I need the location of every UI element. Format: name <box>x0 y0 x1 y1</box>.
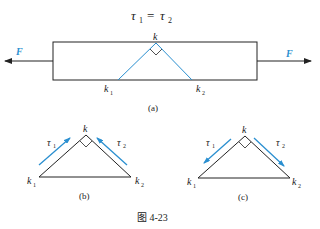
force-label-right: F <box>285 48 293 59</box>
figure-a-bar: F F k k 1 k 2 (a) <box>5 31 311 113</box>
point-k2-label-c: k <box>292 176 297 187</box>
inclined-section-lines <box>118 43 192 80</box>
right-angle-mark-b <box>80 141 92 147</box>
point-k-label-b: k <box>83 123 88 134</box>
right-angle-mark <box>150 49 162 55</box>
point-k2-label: k <box>196 83 201 94</box>
point-k1-label-b: k <box>27 175 32 186</box>
tau2-label-c: τ <box>276 137 280 148</box>
tau1-label-c: τ <box>206 137 210 148</box>
figure-c-triangle: τ 1 τ 2 k k 1 k 2 (c) <box>187 124 301 202</box>
point-k1-subscript: 1 <box>110 90 113 96</box>
point-k1-label-c: k <box>187 176 192 187</box>
tau1-subscript-b: 1 <box>53 143 56 149</box>
tau1-subscript: 1 <box>139 16 143 25</box>
caption-c: (c) <box>238 192 248 202</box>
bar-rectangle <box>53 42 257 80</box>
right-angle-mark-c <box>239 142 251 148</box>
figure-b-triangle: τ 1 τ 2 k k 1 k 2 (b) <box>27 123 144 201</box>
tau2-symbol: τ <box>160 8 166 23</box>
tau1-symbol: τ <box>131 8 137 23</box>
point-k2-subscript-c: 2 <box>298 183 301 189</box>
equation-tau1-equals-tau2: τ 1 = τ 2 <box>131 8 172 25</box>
point-k-label: k <box>153 31 158 42</box>
point-k-label-c: k <box>242 124 247 135</box>
tau2-label-b: τ <box>117 137 121 148</box>
tau2-subscript: 2 <box>168 16 172 25</box>
point-k1-label: k <box>104 83 109 94</box>
tau2-subscript-b: 2 <box>123 143 126 149</box>
diagram-canvas: τ 1 = τ 2 F F k k 1 k 2 (a) τ 1 τ 2 k k … <box>0 0 320 229</box>
caption-a: (a) <box>148 103 158 113</box>
figure-caption: 图 4-23 <box>137 212 168 223</box>
force-label-left: F <box>15 46 23 57</box>
caption-b: (b) <box>79 191 90 201</box>
equals-sign: = <box>147 8 154 23</box>
point-k2-label-b: k <box>135 175 140 186</box>
tau2-subscript-c: 2 <box>282 143 285 149</box>
point-k1-subscript-c: 1 <box>193 183 196 189</box>
point-k2-subscript: 2 <box>202 90 205 96</box>
point-k1-subscript-b: 1 <box>33 182 36 188</box>
tau1-subscript-c: 1 <box>212 143 215 149</box>
tau1-label-b: τ <box>47 137 51 148</box>
point-k2-subscript-b: 2 <box>141 182 144 188</box>
